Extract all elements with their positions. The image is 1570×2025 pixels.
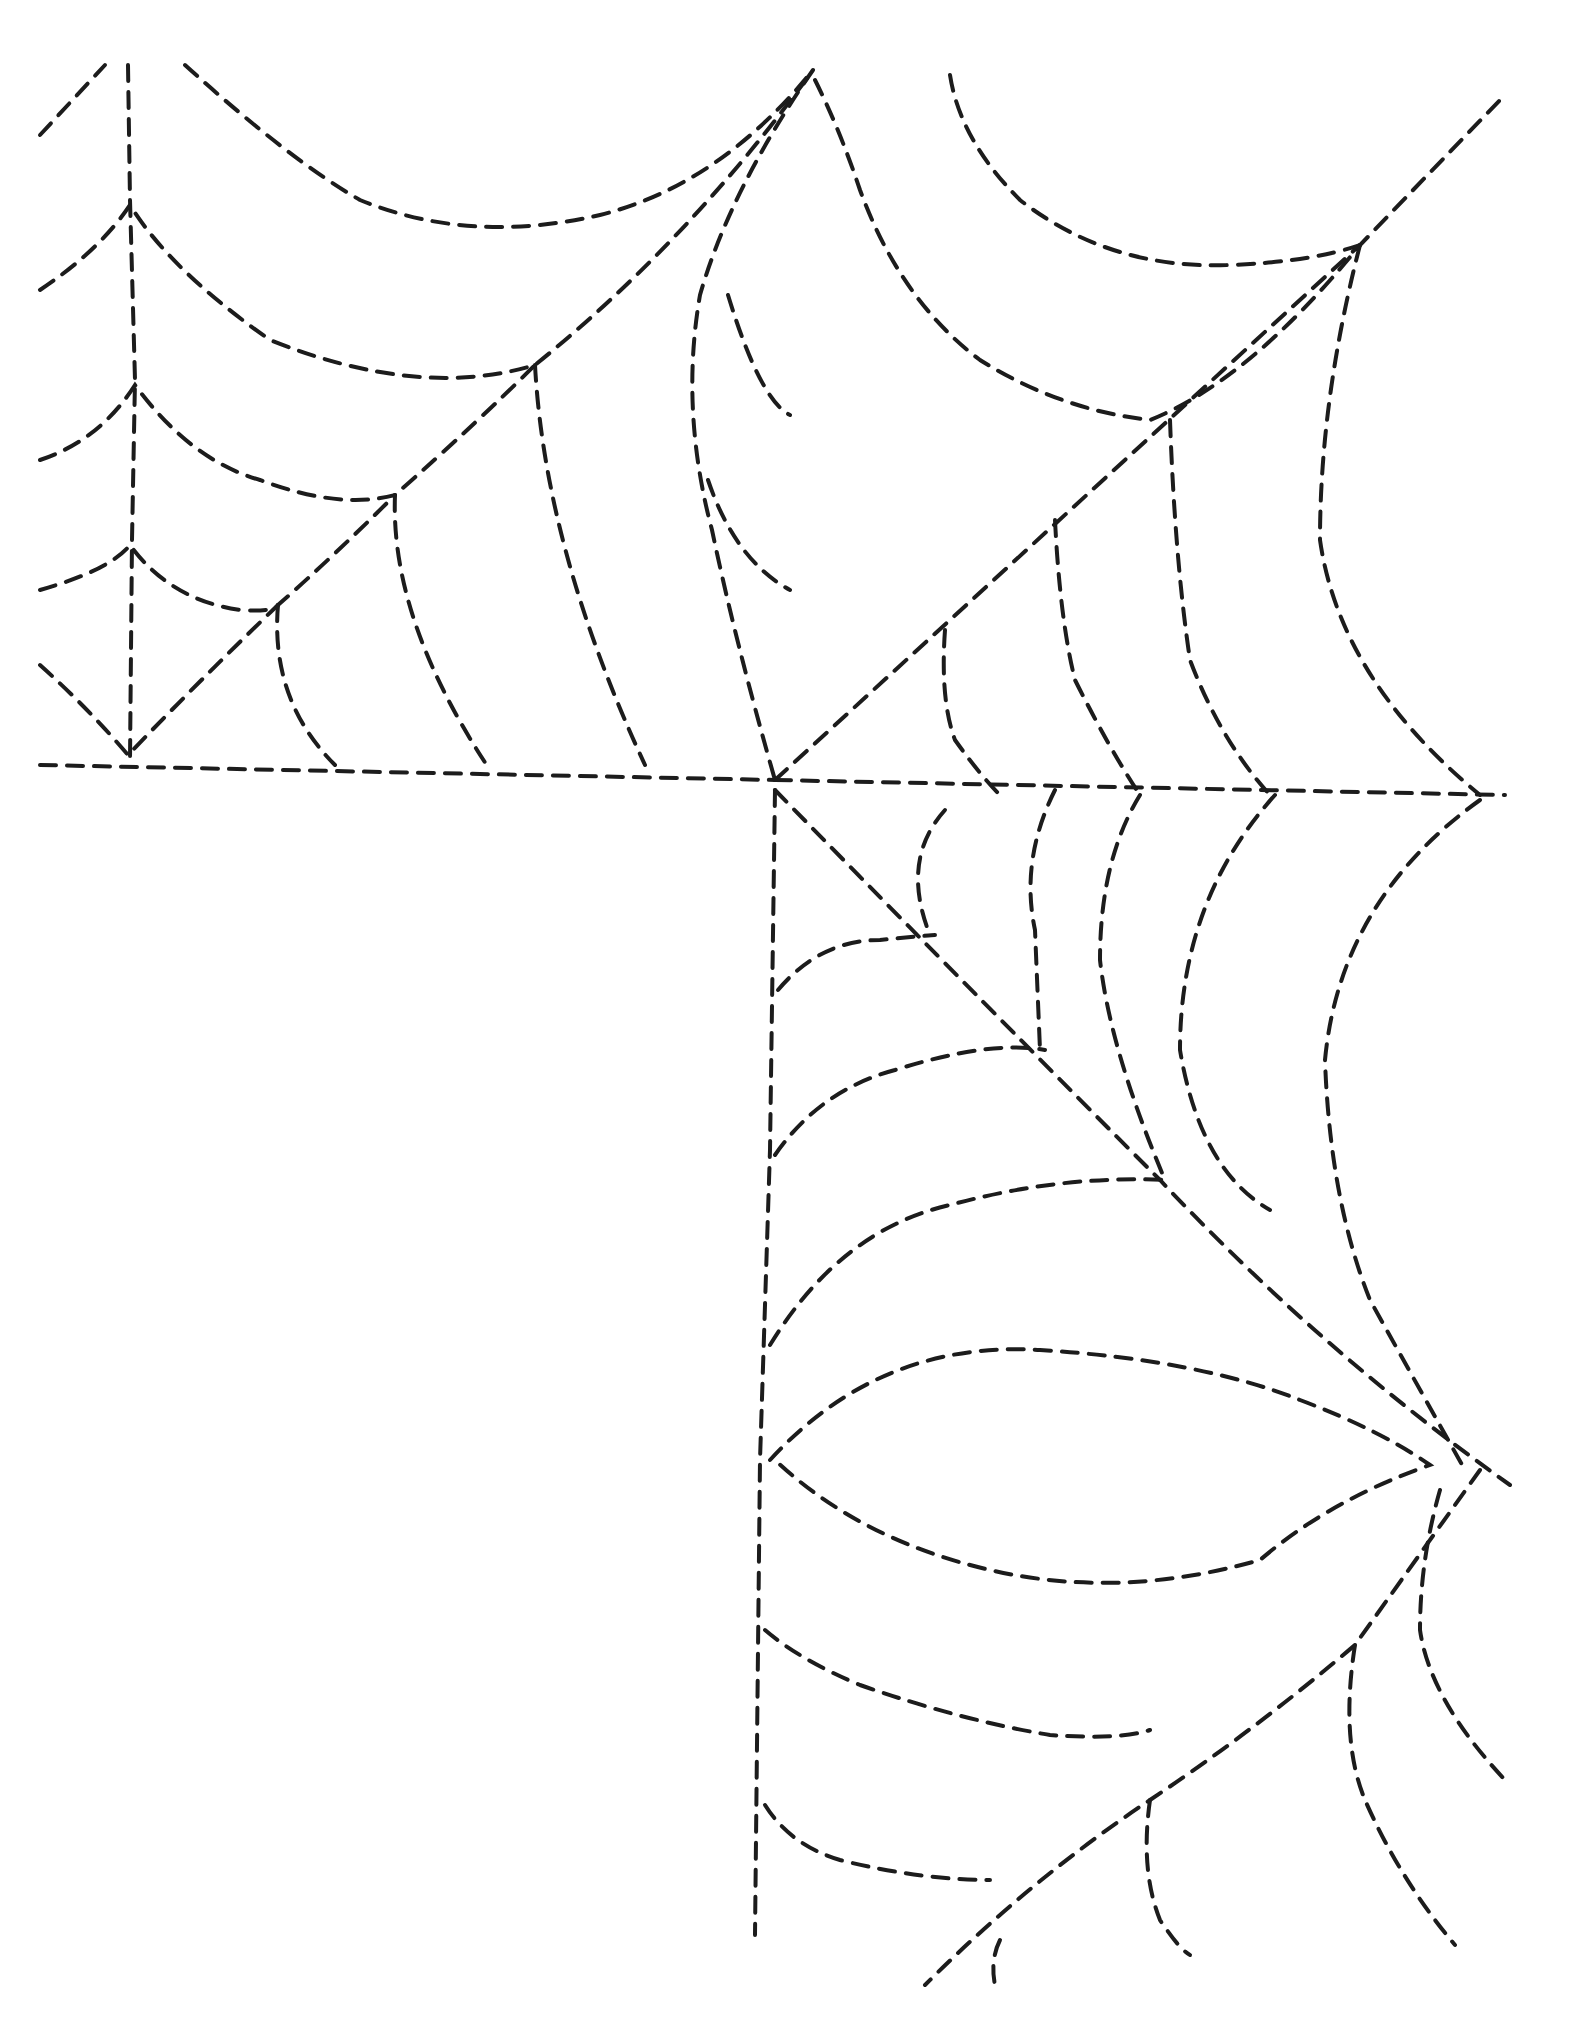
- web-strand: [765, 1630, 1150, 1737]
- web-strand: [1055, 520, 1140, 795]
- web-strand: [708, 480, 790, 590]
- web-strand: [128, 65, 135, 760]
- web-strand: [775, 245, 1360, 780]
- lower-right-web: [755, 790, 1510, 1985]
- web-strand: [1147, 1800, 1190, 1955]
- web-strand: [775, 790, 1510, 1485]
- web-strand: [755, 790, 775, 1935]
- spider-web-drawing: [0, 0, 1570, 2025]
- web-strand: [775, 780, 1505, 795]
- web-strand: [778, 935, 935, 990]
- web-strand: [185, 65, 813, 227]
- web-strand: [815, 80, 1500, 420]
- web-strand: [40, 765, 775, 780]
- upper-left-web: [40, 65, 813, 780]
- web-strand: [728, 295, 790, 415]
- web-strand: [40, 365, 535, 500]
- web-strand: [395, 495, 490, 770]
- web-strand: [770, 1179, 1165, 1345]
- web-strand: [692, 70, 813, 780]
- web-strand: [770, 1349, 1430, 1583]
- web-strand: [40, 605, 278, 755]
- web-strand: [925, 1470, 1480, 1985]
- upper-right-web: [775, 75, 1505, 795]
- web-strand: [1325, 800, 1480, 1470]
- web-strand: [993, 1940, 1000, 1985]
- web-strand: [535, 365, 645, 765]
- web-strand: [1100, 795, 1165, 1180]
- web-strand: [1320, 245, 1480, 795]
- web-strand: [40, 65, 105, 135]
- web-strand: [1420, 1490, 1505, 1780]
- web-strand: [765, 1805, 990, 1880]
- web-strand: [950, 75, 1360, 265]
- web-strand: [1170, 420, 1270, 795]
- web-strand: [1180, 795, 1275, 1210]
- web-strand: [40, 70, 813, 378]
- web-strand: [1031, 790, 1056, 1050]
- web-strand: [944, 630, 1000, 795]
- web-strand: [40, 495, 395, 610]
- web-strand: [918, 810, 945, 935]
- web-strand: [277, 605, 335, 765]
- web-strand: [775, 1048, 1045, 1156]
